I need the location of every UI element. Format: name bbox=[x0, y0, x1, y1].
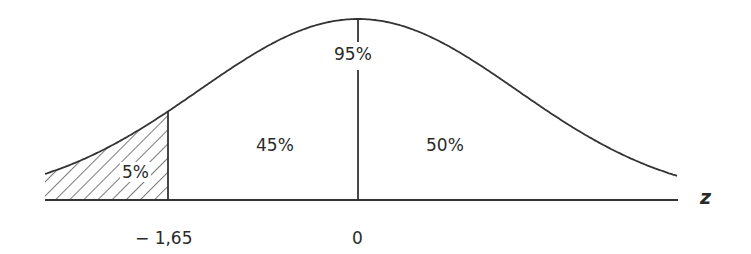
tick-zero: 0 bbox=[352, 228, 363, 248]
tick-neg-165: − 1,65 bbox=[135, 228, 193, 248]
axis-label-z: z bbox=[700, 186, 711, 208]
tail-percent-label: 5% bbox=[120, 162, 151, 182]
top-percent-label: 95% bbox=[334, 44, 372, 64]
normal-curve-plot bbox=[0, 0, 751, 254]
right-percent-label: 50% bbox=[426, 135, 464, 155]
middle-percent-label: 45% bbox=[256, 135, 294, 155]
shaded-tail-region bbox=[45, 111, 168, 200]
